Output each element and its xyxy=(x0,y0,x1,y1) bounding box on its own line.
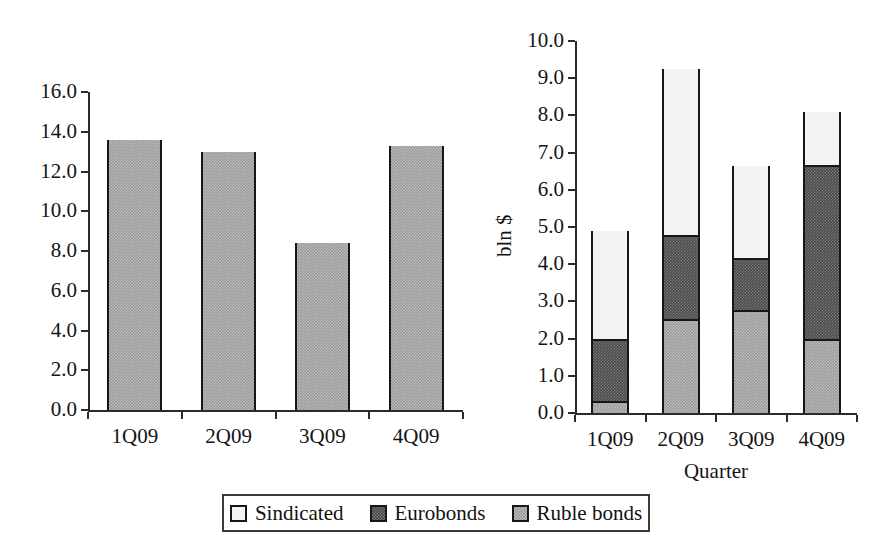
legend-swatch-sindicated-icon xyxy=(230,505,247,522)
y-axis-tick-label: 7.0 xyxy=(508,142,564,163)
y-axis-tick-label: 0.0 xyxy=(508,402,564,423)
y-axis-tick xyxy=(81,210,88,212)
y-axis-tick-label: 4.0 xyxy=(508,253,564,274)
y-axis-tick xyxy=(568,152,575,154)
right-stacked-bar-chart: 0.01.02.03.04.05.06.07.08.09.010.01Q092Q… xyxy=(470,0,872,500)
y-axis-tick-label: 8.0 xyxy=(508,104,564,125)
legend-label: Sindicated xyxy=(255,503,344,524)
y-axis-tick-label: 12.0 xyxy=(21,161,77,182)
bar-fill xyxy=(297,243,348,410)
x-axis-tick xyxy=(574,415,576,422)
bar-segment-sindicated xyxy=(593,231,627,341)
x-axis-tick xyxy=(856,415,858,422)
y-axis-tick-label: 5.0 xyxy=(508,216,564,237)
y-axis-tick xyxy=(81,290,88,292)
bar-4q09 xyxy=(803,112,841,413)
x-axis-tick xyxy=(275,412,277,419)
x-axis-tick-label: 3Q09 xyxy=(277,426,367,447)
bar-segment-divider xyxy=(593,401,627,403)
y-axis-tick xyxy=(568,189,575,191)
y-axis-tick xyxy=(568,375,575,377)
y-axis-tick xyxy=(81,409,88,411)
y-axis-tick-label: 8.0 xyxy=(21,240,77,261)
bar-segment-eurobonds xyxy=(805,166,839,341)
y-axis-tick-label: 10.0 xyxy=(21,200,77,221)
legend-swatch-eurobonds-icon xyxy=(370,505,387,522)
bar-segment-eurobonds xyxy=(593,340,627,401)
y-axis-tick xyxy=(81,171,88,173)
y-axis-tick-label: 6.0 xyxy=(508,179,564,200)
bar-fill xyxy=(203,152,254,410)
left-bar-chart: 0.02.04.06.08.010.012.014.016.01Q092Q093… xyxy=(0,0,470,460)
bar-3q09 xyxy=(295,243,350,410)
x-axis-tick-label: 4Q09 xyxy=(777,429,867,450)
y-axis-tick xyxy=(81,91,88,93)
legend-item-sindicated: Sindicated xyxy=(230,503,344,524)
bar-2q09 xyxy=(662,69,700,413)
y-axis-tick-label: 2.0 xyxy=(508,328,564,349)
legend-label: Eurobonds xyxy=(395,503,486,524)
bar-segment-divider xyxy=(805,165,839,167)
y-axis-tick xyxy=(568,412,575,414)
bar-2q09 xyxy=(201,152,256,410)
bar-fill xyxy=(109,140,160,410)
legend-swatch-ruble-bonds-icon xyxy=(512,505,529,522)
y-axis-title: bln $ xyxy=(494,214,515,257)
bar-segment-ruble-bonds xyxy=(593,402,627,413)
y-axis-tick-label: 6.0 xyxy=(21,280,77,301)
x-axis-tick-label: 4Q09 xyxy=(371,426,461,447)
legend-item-eurobonds: Eurobonds xyxy=(370,503,486,524)
x-axis-tick xyxy=(368,412,370,419)
x-axis-tick xyxy=(715,415,717,422)
bar-segment-divider xyxy=(734,258,768,260)
x-axis-title: Quarter xyxy=(575,461,857,482)
bar-1q09 xyxy=(591,231,629,413)
bar-fill xyxy=(391,146,442,410)
bar-segment-ruble-bonds xyxy=(734,311,768,413)
y-axis-tick-label: 1.0 xyxy=(508,365,564,386)
figure-container: 0.02.04.06.08.010.012.014.016.01Q092Q093… xyxy=(0,0,872,551)
bar-segment-sindicated xyxy=(805,112,839,166)
bar-segment-sindicated xyxy=(664,69,698,236)
x-axis-tick-label: 2Q09 xyxy=(184,426,274,447)
y-axis-line xyxy=(575,41,577,414)
legend-item-ruble-bonds: Ruble bonds xyxy=(512,503,643,524)
y-axis-tick xyxy=(568,263,575,265)
y-axis-tick xyxy=(81,250,88,252)
y-axis-tick-label: 14.0 xyxy=(21,121,77,142)
y-axis-tick xyxy=(81,330,88,332)
y-axis-tick xyxy=(568,77,575,79)
x-axis-tick xyxy=(462,412,464,419)
bar-segment-divider xyxy=(805,339,839,341)
y-axis-tick xyxy=(81,369,88,371)
y-axis-tick xyxy=(568,40,575,42)
bar-3q09 xyxy=(732,166,770,413)
bar-segment-eurobonds xyxy=(734,259,768,311)
chart-legend: SindicatedEurobondsRuble bonds xyxy=(222,494,650,532)
y-axis-tick xyxy=(81,131,88,133)
bar-segment-ruble-bonds xyxy=(664,320,698,413)
bar-segment-divider xyxy=(734,310,768,312)
bar-1q09 xyxy=(107,140,162,410)
y-axis-tick-label: 2.0 xyxy=(21,359,77,380)
y-axis-tick-label: 0.0 xyxy=(21,399,77,420)
x-axis-tick xyxy=(87,412,89,419)
y-axis-tick xyxy=(568,300,575,302)
bar-segment-divider xyxy=(593,339,627,341)
x-axis-tick xyxy=(181,412,183,419)
y-axis-tick-label: 10.0 xyxy=(508,30,564,51)
y-axis-line xyxy=(88,92,90,411)
bar-segment-ruble-bonds xyxy=(805,340,839,413)
bar-segment-eurobonds xyxy=(664,236,698,320)
y-axis-tick xyxy=(568,226,575,228)
bar-segment-divider xyxy=(664,319,698,321)
x-axis-tick-label: 1Q09 xyxy=(90,426,180,447)
y-axis-tick xyxy=(568,114,575,116)
y-axis-tick-label: 4.0 xyxy=(21,320,77,341)
bar-segment-sindicated xyxy=(734,166,768,259)
y-axis-tick-label: 3.0 xyxy=(508,290,564,311)
y-axis-tick-label: 9.0 xyxy=(508,67,564,88)
y-axis-tick-label: 16.0 xyxy=(21,81,77,102)
bar-4q09 xyxy=(389,146,444,410)
bar-segment-divider xyxy=(664,235,698,237)
